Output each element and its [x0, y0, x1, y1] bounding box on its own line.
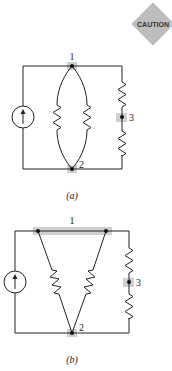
current-source-icon [4, 271, 26, 293]
wire-bottom [15, 293, 129, 333]
circuit-b: 1 2 3 (b) [4, 215, 141, 366]
node-1a [36, 229, 40, 233]
wire-left-branch-top [57, 66, 72, 105]
resistor-upper [125, 246, 133, 282]
resistor-lower [118, 117, 126, 156]
svg-text:CAUTION: CAUTION [137, 21, 169, 28]
node-2 [70, 331, 74, 335]
resistor-left-branch [53, 105, 61, 130]
caption-a: (a) [66, 190, 78, 202]
node-2-label: 2 [79, 159, 84, 170]
wire-top [15, 231, 129, 271]
current-source-icon [12, 106, 34, 128]
wire-left-branch-top [38, 231, 52, 270]
resistor-lower [125, 282, 133, 319]
node-1-label: 1 [70, 51, 75, 62]
resistor-left-branch [50, 270, 61, 294]
wire-left-branch-bottom [57, 130, 72, 169]
resistor-upper [118, 80, 126, 117]
circuit-a: 1 2 3 (a) [12, 51, 134, 202]
wire-right-branch-top [72, 66, 87, 105]
circuit-figure: CAUTION 1 2 3 (a) [0, 0, 172, 371]
node-2 [70, 167, 74, 171]
node-3 [120, 115, 124, 119]
wire-left-branch-bottom [59, 294, 72, 333]
node-1-label: 1 [70, 215, 75, 226]
node-3 [127, 280, 131, 284]
node-3-label: 3 [129, 112, 134, 123]
caution-icon: CAUTION [132, 3, 172, 45]
caption-b: (b) [66, 354, 78, 366]
resistor-right-branch [83, 105, 91, 130]
node-3-label: 3 [136, 277, 141, 288]
resistor-right-branch [84, 270, 95, 294]
node-1 [70, 64, 74, 68]
wire-bottom [23, 128, 122, 169]
node-1b [104, 229, 108, 233]
node-2-label: 2 [79, 322, 84, 333]
wire-right-branch-top [93, 231, 106, 270]
wire-top [23, 66, 122, 106]
